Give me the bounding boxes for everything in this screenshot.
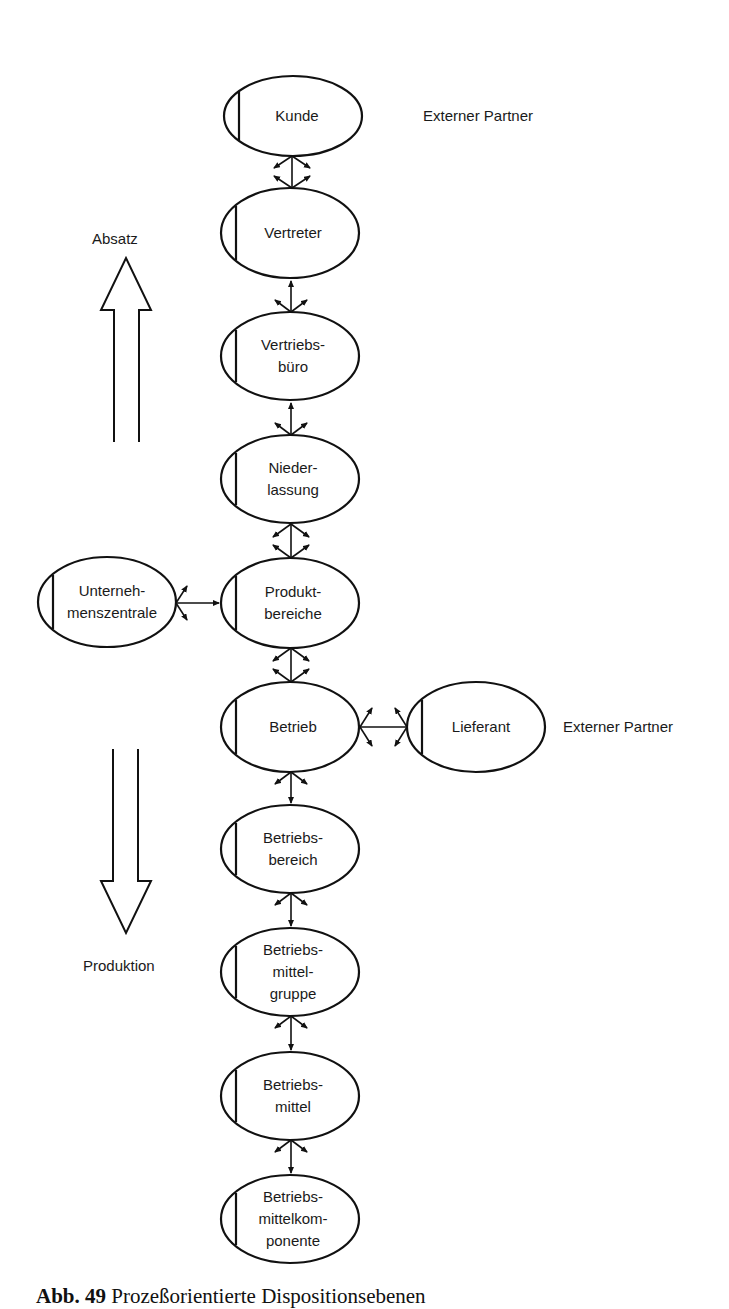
node-vertriebsbuero — [221, 312, 359, 400]
caption-number: Abb. 49 — [36, 1284, 106, 1308]
label-externer-partner-top: Externer Partner — [423, 106, 533, 125]
node-vertreter — [221, 188, 359, 278]
node-niederlassung — [221, 435, 359, 523]
node-betriebsbereich — [221, 805, 359, 893]
node-unternehmenszentrale — [38, 557, 176, 647]
node-betriebsmittelkomponente — [221, 1175, 359, 1263]
edge-niederlassung-produktbereiche — [273, 524, 309, 558]
node-lieferant — [407, 682, 545, 772]
edge-betriebsbereich-betriebsmittelgruppe — [275, 893, 307, 926]
edge-vertreter-vertriebsbuero — [275, 281, 307, 312]
edge-betrieb-betriebsbereich — [275, 772, 307, 803]
node-kunde — [224, 76, 362, 156]
node-produktbereiche — [221, 558, 359, 648]
edge-kunde-vertreter — [274, 156, 310, 188]
absatz-arrow-icon — [101, 258, 151, 442]
edge-betriebsmittelgruppe-betriebsmittel — [275, 1016, 307, 1050]
edge-unternehmenszentrale-produktbereiche — [176, 586, 219, 620]
label-externer-partner-right: Externer Partner — [563, 717, 673, 736]
node-betrieb — [221, 682, 359, 772]
edge-produktbereiche-betrieb — [273, 648, 309, 682]
label-absatz: Absatz — [92, 229, 138, 248]
produktion-arrow-icon — [101, 749, 151, 933]
edge-betriebsmittel-komponente — [275, 1140, 307, 1173]
edge-betrieb-lieferant — [360, 708, 407, 746]
label-produktion: Produktion — [83, 956, 155, 975]
figure-caption: Abb. 49 Prozeßorientierte Dispositionseb… — [36, 1284, 426, 1309]
node-betriebsmittelgruppe — [221, 928, 359, 1016]
node-betriebsmittel — [221, 1052, 359, 1140]
edge-vertriebsbuero-niederlassung — [275, 403, 307, 435]
caption-text: Prozeßorientierte Dispositionsebenen — [111, 1284, 425, 1308]
